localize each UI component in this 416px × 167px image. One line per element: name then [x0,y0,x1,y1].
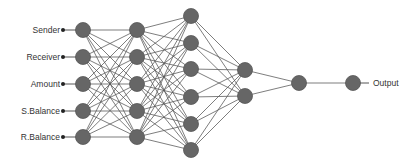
input-dot [61,109,65,113]
neuron-node [130,50,145,65]
neuron-node [292,76,307,91]
input-label-receiver: Receiver [0,52,60,62]
neuron-node [184,62,199,77]
neuron-node [238,63,253,78]
neuron-node [184,9,199,24]
input-label-s-balance: S.Balance [0,106,60,116]
neuron-node [76,77,91,92]
neuron-node [130,77,145,92]
neuron-node [238,89,253,104]
neuron-node [76,130,91,145]
output-label: Output [373,78,399,88]
connections [63,16,369,150]
neuron-node [130,23,145,38]
input-dot [61,28,65,32]
input-label-sender: Sender [0,25,60,35]
input-label-amount: Amount [0,79,60,89]
neuron-node [184,143,199,158]
neuron-node [184,36,199,51]
input-label-r-balance: R.Balance [0,132,60,142]
neuron-node [346,76,361,91]
neural-network-diagram [0,0,416,167]
neuron-node [184,117,199,132]
input-dot [61,55,65,59]
neuron-node [76,23,91,38]
neuron-node [76,104,91,119]
input-dot [61,82,65,86]
input-dot [61,135,65,139]
neuron-node [184,90,199,105]
neuron-node [130,104,145,119]
neuron-node [76,50,91,65]
neuron-node [130,130,145,145]
